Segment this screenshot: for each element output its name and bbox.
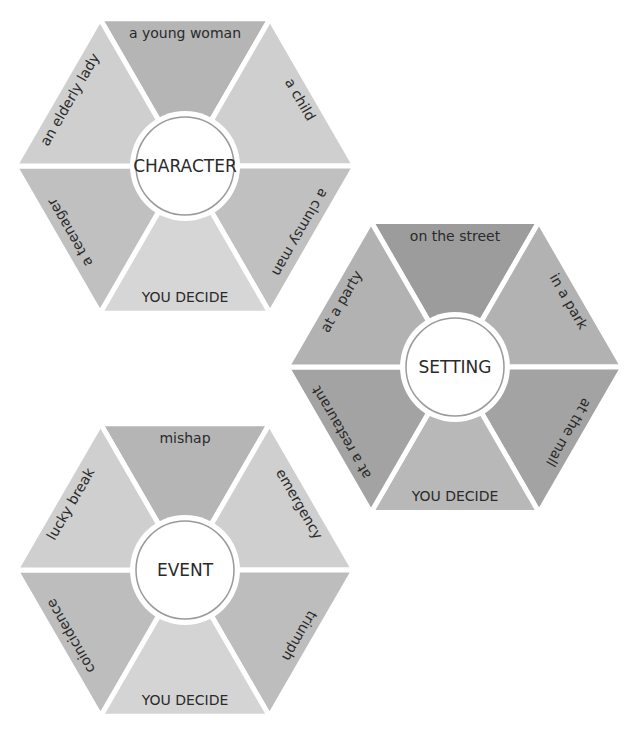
segment-label: on the street: [410, 228, 501, 244]
hexagon-title: EVENT: [157, 560, 214, 580]
segment-label: a young woman: [129, 25, 241, 41]
hexagon-setting: on the streetin a parkat the mallYOU DEC…: [287, 222, 623, 513]
segment-label: YOU DECIDE: [141, 289, 229, 305]
hexagon-title: SETTING: [419, 357, 492, 377]
hexagon-character: a young womana childa clumsy manYOU DECI…: [15, 19, 355, 313]
hexagon-title: CHARACTER: [133, 156, 237, 176]
segment-label: YOU DECIDE: [411, 488, 499, 504]
story-hexagon-diagram: a young womana childa clumsy manYOU DECI…: [0, 0, 636, 731]
segment-label: mishap: [159, 430, 210, 446]
segment-label: YOU DECIDE: [141, 692, 229, 708]
hexagon-event: mishapemergencytriumphYOU DECIDEcoincide…: [16, 424, 354, 717]
